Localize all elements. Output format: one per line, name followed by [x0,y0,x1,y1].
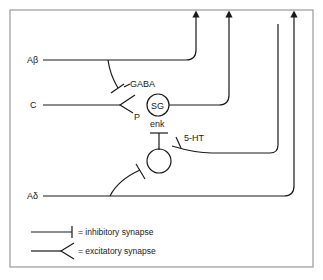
diagram-frame [10,10,313,267]
serotonin-excitatory-mark [176,137,181,148]
enk-label: enk [150,119,165,129]
gaba-branch [108,60,118,88]
gate-control-diagram: Aβ GABA C P SG enk 5-HT Aδ = inhibitory … [0,0,323,280]
abeta-label: Aβ [27,55,38,65]
gaba-inhibitory-bar [111,84,124,93]
abeta-fiber [43,14,196,60]
legend-inhibitory-text: = inhibitory synapse [78,227,154,237]
enk-interneuron [147,149,171,173]
adelta-branch [110,170,140,196]
adelta-label: Aδ [27,191,38,201]
sg-label: SG [151,101,164,111]
c-label: C [30,100,37,110]
c-excitatory-fork [120,95,135,113]
legend-excitatory-fork [61,243,74,259]
p-label: P [134,112,140,122]
legend-excitatory-text: = excitatory synapse [78,246,156,256]
gaba-label: GABA [130,79,155,89]
serotonin-label: 5-HT [184,133,205,143]
